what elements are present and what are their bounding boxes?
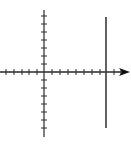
coordinate-plane-svg	[0, 0, 131, 145]
coordinate-plane-diagram	[0, 0, 131, 145]
